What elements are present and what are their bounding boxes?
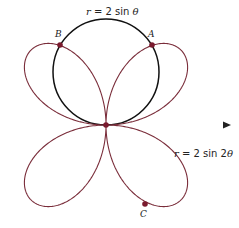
circle-equation-label: r = 2 sin θ (86, 6, 139, 17)
point-b-marker (57, 42, 63, 48)
circle-curve-r-2sin-theta (53, 19, 159, 125)
point-a-label: A (148, 29, 155, 39)
axis-arrowhead-icon (223, 122, 231, 129)
polar-curves-diagram (0, 0, 239, 228)
point-c-label: C (140, 209, 147, 219)
rose-equation-label: r = 2 sin 2θ (174, 148, 233, 159)
point-o-marker (103, 122, 109, 128)
point-a-marker (149, 42, 155, 48)
point-b-label: B (55, 29, 62, 39)
point-c-marker (142, 201, 148, 207)
